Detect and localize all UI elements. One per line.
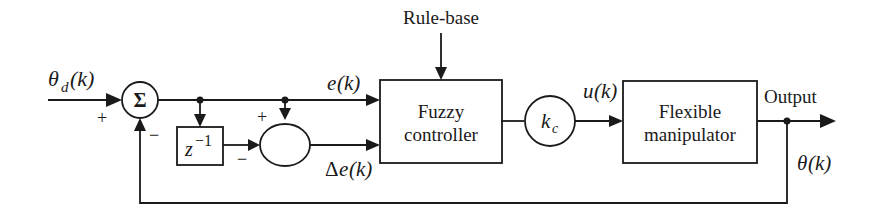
fuzzy-control-block-diagram: θ d (k) + Σ − e (k) z −1 − + Δ e (k) Rul…: [0, 0, 881, 216]
fuzzy-controller-line1: Fuzzy: [418, 101, 465, 122]
delay-output-arrowhead-icon: [248, 139, 260, 151]
difference-branch-arrowhead-icon: [279, 108, 291, 120]
plant-block: Flexible manipulator: [623, 81, 757, 163]
delta-error-arg: (k): [349, 157, 372, 181]
fuzzy-controller-line2: controller: [404, 124, 479, 145]
error-symbol: e: [327, 71, 336, 95]
delay-branch-arrowhead-icon: [194, 114, 206, 127]
gain-block: k c: [525, 96, 575, 146]
delta-prefix: Δ: [325, 157, 339, 181]
feedback-arrowhead-icon: [134, 118, 146, 131]
delta-error-arrowhead-icon: [366, 139, 380, 151]
delay-block: z −1: [177, 127, 223, 165]
output-label: Output: [764, 86, 818, 107]
difference-circle: [260, 124, 310, 166]
reference-input: θ d (k) +: [48, 66, 122, 128]
control-arrowhead-icon: [609, 115, 623, 127]
error-arrowhead-icon: [366, 94, 380, 106]
control-symbol: u: [583, 79, 594, 103]
output-angle-symbol: θ: [797, 151, 807, 175]
plant-line2: manipulator: [644, 124, 736, 145]
gain-subscript: c: [552, 121, 559, 136]
gain-symbol: k: [541, 109, 551, 133]
sum-plus-sign: +: [97, 108, 107, 128]
diff-plus-sign: +: [257, 107, 267, 127]
error-arg: (k): [337, 71, 360, 95]
fuzzy-controller-block: Fuzzy controller: [380, 80, 502, 163]
rule-base-arrowhead-icon: [435, 67, 447, 80]
plant-line1: Flexible: [659, 101, 721, 122]
delta-error-symbol: e: [339, 157, 348, 181]
sigma-label: Σ: [133, 89, 146, 111]
plant-rect: [623, 81, 757, 163]
diff-minus-sign: −: [237, 149, 247, 169]
delay-exponent: −1: [195, 132, 212, 149]
output-arrowhead-icon: [820, 114, 836, 128]
sum-minus-sign: −: [149, 125, 159, 145]
reference-subscript: d: [61, 79, 69, 95]
delay-base: z: [184, 138, 193, 160]
control-arg: (k): [594, 79, 617, 103]
reference-symbol: θ: [48, 66, 59, 91]
reference-arrowhead-icon: [106, 93, 122, 107]
reference-arg: (k): [70, 66, 94, 91]
rule-base-label: Rule-base: [403, 7, 479, 28]
output-angle-arg: (k): [808, 151, 831, 175]
